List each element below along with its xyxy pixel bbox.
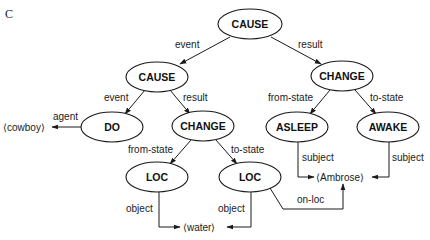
entity-cowboy: ⟨cowboy⟩ [3,122,45,133]
entity-water: ⟨water⟩ [183,222,215,233]
node-label: DO [104,121,120,133]
node-label: AWAKE [369,121,408,133]
edge-label-mid-result: result [183,92,208,103]
entity-ambrose: ⟨Ambrose⟩ [316,172,364,183]
edge-label-agent: agent [53,111,78,122]
node-label: CAUSE [139,71,176,83]
node-loc-right: LOC [219,162,281,192]
node-change-mid: CHANGE [172,111,234,141]
node-asleep: ASLEEP [266,112,328,142]
edge-label-loc-left-object: object [126,203,153,214]
node-label: CHANGE [319,70,365,82]
node-awake: AWAKE [357,112,419,142]
node-loc-left: LOC [126,162,188,192]
edge-loc-left-object [159,192,180,227]
edge-label-on-loc: on-loc [297,194,324,205]
node-label: CAUSE [232,18,269,30]
node-change-right: CHANGE [311,61,373,91]
edge-label-top-result: result [298,39,323,50]
edge-label-mid-to-state: to-state [231,144,265,155]
edge-label-mid-from-state: from-state [128,144,173,155]
edge-mid-from-state [170,140,191,164]
conceptual-dependency-diagram: C event result event result from-state t… [0,0,430,240]
node-cause-mid: CAUSE [126,62,188,92]
edge-label-right-to-state: to-state [370,92,404,103]
edge-label-mid-event: event [104,92,129,103]
node-do: DO [81,112,143,142]
node-label: LOC [146,171,169,183]
node-label: CHANGE [180,120,226,132]
edge-label-top-event: event [175,39,200,50]
edge-label-asleep-subject: subject [302,152,334,163]
panel-label: C [5,7,13,21]
node-cause-top: CAUSE [218,9,282,39]
node-label: LOC [239,171,262,183]
edge-label-awake-subject: subject [392,152,424,163]
edge-label-loc-right-object: object [218,203,245,214]
node-label: ASLEEP [276,121,318,133]
edge-label-right-from-state: from-state [268,92,313,103]
edge-awake-subject [372,142,389,177]
